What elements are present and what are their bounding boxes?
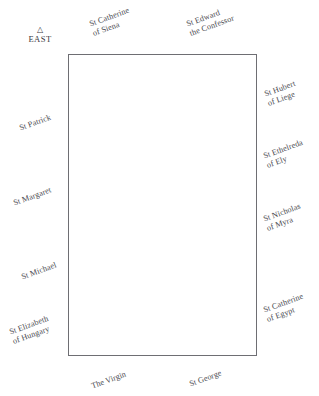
label-the-virgin: The Virgin <box>90 370 127 391</box>
label-line-1: St Michael <box>20 260 58 282</box>
triangle-up-icon: △ <box>20 26 60 34</box>
label-st-catherine-of-siena: St Catherine of Siena <box>88 6 134 38</box>
label-line-1: St Patrick <box>18 113 52 133</box>
label-st-patrick: St Patrick <box>18 113 52 133</box>
orientation-label: EAST <box>20 34 60 44</box>
label-st-george: St George <box>188 368 223 389</box>
label-st-hubert-of-liege: St Hubert of Liege <box>263 79 300 108</box>
label-st-michael: St Michael <box>20 260 58 282</box>
orientation-marker: △ EAST <box>20 26 60 44</box>
label-st-edward-the-confessor: St Edward the Confessor <box>185 4 235 38</box>
label-line-1: St Margaret <box>12 185 53 208</box>
label-st-margaret: St Margaret <box>12 185 53 208</box>
diagram-canvas: △ EAST St Catherine of Siena St Edward t… <box>0 0 319 396</box>
plan-rectangle <box>68 54 257 356</box>
label-st-nicholas-of-myra: St Nicholas of Myra <box>262 202 305 233</box>
label-line-1: The Virgin <box>90 370 127 391</box>
label-st-ethelreda-of-ely: St Ethelreda of Ely <box>262 138 308 170</box>
label-st-elizabeth-of-hungary: St Elizabeth of Hungary <box>8 314 53 346</box>
label-st-catherine-of-egypt: St Catherine of Egypt <box>262 292 308 324</box>
label-line-1: St George <box>188 368 223 389</box>
